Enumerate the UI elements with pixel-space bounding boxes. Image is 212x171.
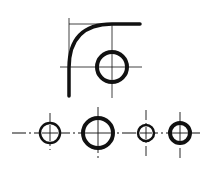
- technical-sketch: [0, 0, 212, 171]
- fillet-curve: [69, 24, 140, 96]
